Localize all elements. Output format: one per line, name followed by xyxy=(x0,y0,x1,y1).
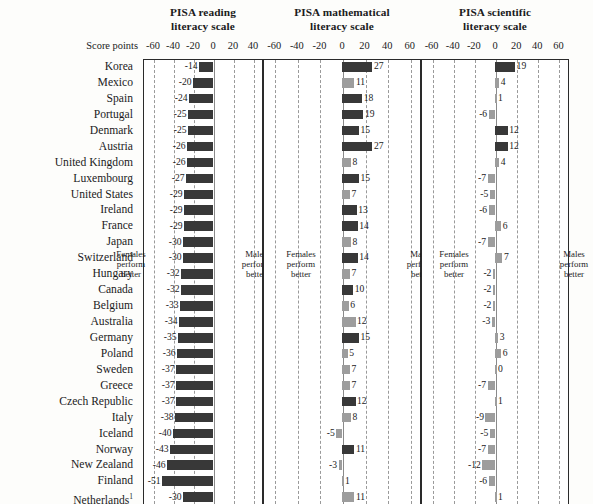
bar xyxy=(188,110,213,120)
bar-value-label: -38 xyxy=(161,411,175,423)
bar-value-label: -9 xyxy=(476,411,486,423)
bar-row: 7 xyxy=(263,187,421,203)
bar-row: -25 xyxy=(143,123,263,139)
score-points-label: Score points xyxy=(0,40,138,51)
bar-row: -37 xyxy=(143,378,263,394)
bar-value-label: -7 xyxy=(478,379,488,391)
bar xyxy=(199,62,213,72)
bar xyxy=(493,285,495,295)
bar-value-label: -33 xyxy=(166,299,180,311)
bar xyxy=(162,476,213,486)
bar-value-label: 7 xyxy=(350,188,356,200)
bar-row: -7 xyxy=(421,234,569,250)
bar xyxy=(189,94,213,104)
bar-value-label: -46 xyxy=(153,459,167,471)
bar xyxy=(342,269,350,279)
country-label: Poland xyxy=(0,346,138,362)
country-label: Portugal xyxy=(0,107,138,123)
bar-value-label: 1 xyxy=(497,395,503,407)
bar-row: 8 xyxy=(263,155,421,171)
x-axis: -60-40-200204060 xyxy=(263,40,421,54)
bar-value-label: -30 xyxy=(169,251,183,263)
bar-value-label: 1 xyxy=(344,475,350,487)
bar-value-label: -5 xyxy=(480,188,490,200)
bar-row: -33 xyxy=(143,298,263,314)
bar-row: -30 xyxy=(143,489,263,504)
bar xyxy=(167,460,213,470)
bar xyxy=(342,62,372,72)
bar xyxy=(485,413,495,423)
bar-row: -29 xyxy=(143,202,263,218)
bar-value-label: 19 xyxy=(515,60,526,72)
country-label: New Zealand xyxy=(0,457,138,473)
bar xyxy=(181,285,213,295)
bar-value-label: 15 xyxy=(359,124,370,136)
country-label: Germany xyxy=(0,330,138,346)
bar-row: 0 xyxy=(421,362,569,378)
bar-row: -38 xyxy=(143,410,263,426)
chart-title-line: literacy scale xyxy=(143,20,263,34)
bar-value-label: -43 xyxy=(156,443,170,455)
bar-row: 15 xyxy=(263,171,421,187)
bar-value-label: -6 xyxy=(479,108,489,120)
bar xyxy=(342,301,349,311)
country-label: Czech Republic xyxy=(0,394,138,410)
bar xyxy=(489,205,495,215)
bar-value-label: -29 xyxy=(170,204,184,216)
bar-row: 7 xyxy=(263,378,421,394)
females-perform-better-note: Femalesperformbetter xyxy=(270,250,332,279)
country-label: Japan xyxy=(0,234,138,250)
bar-row: -7 xyxy=(421,442,569,458)
bar-value-label: 11 xyxy=(354,491,365,503)
bar-value-label: -14 xyxy=(185,60,199,72)
bar xyxy=(173,429,213,439)
bar-value-label: -37 xyxy=(162,395,176,407)
bar-row: -9 xyxy=(421,410,569,426)
bar-row: 1 xyxy=(421,91,569,107)
x-axis-tick-label: 40 xyxy=(248,40,258,51)
bar-value-label: 19 xyxy=(363,108,374,120)
bar-value-label: 4 xyxy=(499,156,505,168)
note-line: better xyxy=(423,270,485,280)
bar xyxy=(187,142,213,152)
bar xyxy=(187,158,213,168)
bar-row: 11 xyxy=(263,489,421,504)
bar-row: -6 xyxy=(421,202,569,218)
bar-row: 4 xyxy=(421,75,569,91)
bar-value-label: -26 xyxy=(173,156,187,168)
chart-title-line: literacy scale xyxy=(263,20,421,34)
bar-rows: 2711181915278157131481471061215577128-51… xyxy=(263,59,421,504)
bar-value-label: -2 xyxy=(483,299,493,311)
bar-row: -6 xyxy=(421,473,569,489)
country-label: United States xyxy=(0,187,138,203)
bar-row: -36 xyxy=(143,346,263,362)
x-axis-tick-label: -40 xyxy=(290,40,304,51)
bar-row: -35 xyxy=(143,330,263,346)
panel-mathematical: PISA mathematicalliteracy scale-60-40-20… xyxy=(263,0,421,504)
bar xyxy=(495,62,515,72)
x-axis-tick-label: 40 xyxy=(532,40,542,51)
bar xyxy=(488,445,495,455)
bar-value-label: -32 xyxy=(167,267,181,279)
bar-value-label: -6 xyxy=(479,204,489,216)
bar-row: 1 xyxy=(421,394,569,410)
bar-row: 6 xyxy=(263,298,421,314)
bar-value-label: -34 xyxy=(165,315,179,327)
bar xyxy=(193,78,213,88)
country-label: Korea xyxy=(0,59,138,75)
bar xyxy=(339,460,342,470)
bar-row: 1 xyxy=(263,473,421,489)
bar-row: -5 xyxy=(421,426,569,442)
x-axis-tick-label: 20 xyxy=(359,40,369,51)
country-label: Denmark xyxy=(0,123,138,139)
x-axis-tick-label: 60 xyxy=(405,40,415,51)
males-perform-better-note: Malesperformbetter xyxy=(543,250,593,279)
bar xyxy=(342,205,357,215)
bar-row: 7 xyxy=(263,362,421,378)
country-label: United Kingdom xyxy=(0,155,138,171)
x-axis: -60-40-2002040 xyxy=(143,40,263,54)
bar-row: 5 xyxy=(263,346,421,362)
bar xyxy=(489,110,495,120)
x-axis-tick-label: -40 xyxy=(166,40,180,51)
note-line: better xyxy=(100,270,162,280)
